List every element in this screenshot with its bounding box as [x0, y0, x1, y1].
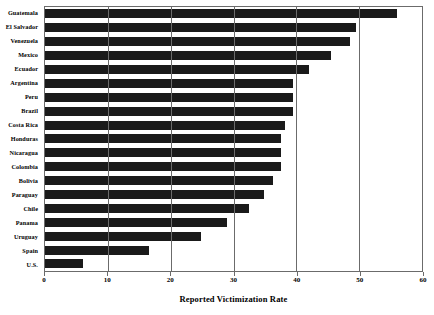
bar-row — [45, 21, 422, 35]
plot-area — [44, 6, 423, 272]
category-axis: GuatemalaEl SalvadorVenezuelaMexicoEcuad… — [0, 6, 41, 272]
x-tick-label: 30 — [230, 277, 237, 284]
bar — [45, 79, 293, 88]
category-label: Guatemala — [8, 10, 38, 16]
category-label-cell: Costa Rica — [0, 118, 41, 132]
category-label-cell: Brazil — [0, 104, 41, 118]
x-tick-label: 60 — [420, 277, 427, 284]
bar — [45, 204, 249, 213]
bar — [45, 23, 356, 32]
bar — [45, 65, 309, 74]
category-label: Spain — [22, 248, 38, 254]
bar-row — [45, 7, 422, 21]
bar — [45, 9, 397, 18]
bar-row — [45, 104, 422, 118]
category-label: Costa Rica — [8, 122, 38, 128]
bar-row — [45, 201, 422, 215]
category-label: Venezuela — [11, 38, 38, 44]
category-label-cell: El Salvador — [0, 20, 41, 34]
plot-inner — [45, 7, 422, 271]
bar-row — [45, 35, 422, 49]
bar — [45, 162, 281, 171]
bar-row — [45, 49, 422, 63]
bar — [45, 176, 273, 185]
category-label: Uruguay — [14, 234, 38, 240]
bar — [45, 190, 264, 199]
category-label-cell: Argentina — [0, 76, 41, 90]
bar-row — [45, 257, 422, 271]
bar — [45, 259, 83, 268]
category-label: Ecuador — [15, 66, 38, 72]
x-tick-label: 50 — [356, 277, 363, 284]
category-label-cell: Colombia — [0, 160, 41, 174]
category-label: El Salvador — [6, 24, 38, 30]
category-label-cell: Paraguay — [0, 188, 41, 202]
category-label: Colombia — [11, 164, 38, 170]
bar-row — [45, 215, 422, 229]
category-label-cell: Spain — [0, 244, 41, 258]
category-label-cell: Mexico — [0, 48, 41, 62]
bar — [45, 93, 293, 102]
x-tick-label: 20 — [167, 277, 174, 284]
bar — [45, 134, 281, 143]
bar — [45, 246, 149, 255]
bar-row — [45, 118, 422, 132]
category-label-cell: Bolivia — [0, 174, 41, 188]
x-axis: 0102030405060 — [44, 272, 423, 292]
bar-row — [45, 76, 422, 90]
category-label: Nicaragua — [10, 150, 38, 156]
category-label: Panama — [16, 220, 38, 226]
bar-row — [45, 160, 422, 174]
bar-row — [45, 132, 422, 146]
bar-row — [45, 229, 422, 243]
category-label: Bolivia — [19, 178, 38, 184]
category-label-cell: Uruguay — [0, 230, 41, 244]
category-label-cell: Venezuela — [0, 34, 41, 48]
x-tick-label: 0 — [42, 277, 46, 284]
category-label: Brazil — [21, 108, 38, 114]
category-label: Mexico — [18, 52, 38, 58]
category-label-cell: Panama — [0, 216, 41, 230]
bar — [45, 51, 331, 60]
x-tick-label: 10 — [104, 277, 111, 284]
bar-row — [45, 188, 422, 202]
bar — [45, 121, 285, 130]
bar — [45, 218, 227, 227]
bar — [45, 232, 201, 241]
bar-chart: GuatemalaEl SalvadorVenezuelaMexicoEcuad… — [0, 0, 434, 315]
bar — [45, 107, 293, 116]
x-tick-label: 40 — [293, 277, 300, 284]
bar-row — [45, 174, 422, 188]
category-label: Honduras — [11, 136, 38, 142]
category-label-cell: Ecuador — [0, 62, 41, 76]
bar-row — [45, 90, 422, 104]
bar-row — [45, 243, 422, 257]
bars-layer — [45, 7, 422, 271]
category-label: Chile — [23, 206, 38, 212]
bar-row — [45, 146, 422, 160]
category-label-cell: U.S. — [0, 258, 41, 272]
category-label-cell: Nicaragua — [0, 146, 41, 160]
x-axis-title: Reported Victimization Rate — [44, 294, 423, 304]
category-label-cell: Peru — [0, 90, 41, 104]
category-label-cell: Guatemala — [0, 6, 41, 20]
bar-row — [45, 63, 422, 77]
category-label: Paraguay — [12, 192, 38, 198]
category-label-cell: Chile — [0, 202, 41, 216]
category-label-cell: Honduras — [0, 132, 41, 146]
category-label: Peru — [25, 94, 38, 100]
category-label: Argentina — [10, 80, 38, 86]
bar — [45, 37, 350, 46]
bar — [45, 148, 281, 157]
category-label: U.S. — [27, 262, 38, 268]
